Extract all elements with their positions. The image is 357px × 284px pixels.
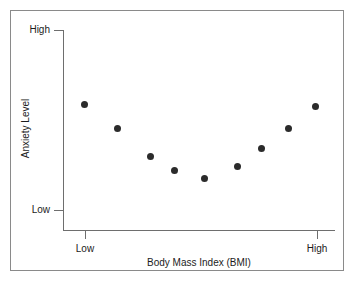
data-point <box>234 163 241 170</box>
data-point <box>312 103 319 110</box>
x-axis-tick-label-low: Low <box>59 243 111 254</box>
y-axis-tick-label-high: High <box>0 25 50 35</box>
data-point <box>201 175 208 182</box>
x-axis-tick-label-high: High <box>291 243 343 254</box>
x-axis-line <box>63 230 335 231</box>
data-point <box>147 153 154 160</box>
plot-area <box>63 30 335 230</box>
x-axis-tick-low <box>85 230 86 239</box>
data-point <box>285 125 292 132</box>
scatter-plot-figure: High Low Low High Body Mass Index (BMI) … <box>0 0 357 284</box>
y-axis-title: Anxiety Level <box>20 74 31 184</box>
x-axis-tick-high <box>317 230 318 239</box>
y-axis-tick-label-low: Low <box>0 205 50 215</box>
data-point <box>114 125 121 132</box>
data-point <box>81 101 88 108</box>
data-point <box>171 167 178 174</box>
x-axis-title: Body Mass Index (BMI) <box>63 257 335 268</box>
data-point <box>258 145 265 152</box>
